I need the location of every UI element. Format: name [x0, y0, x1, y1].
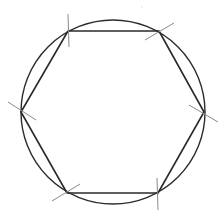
background: [0, 0, 223, 217]
diagram-canvas: [0, 0, 223, 217]
stray-speck: [141, 6, 142, 7]
hexagon-construction-diagram: [0, 0, 223, 217]
